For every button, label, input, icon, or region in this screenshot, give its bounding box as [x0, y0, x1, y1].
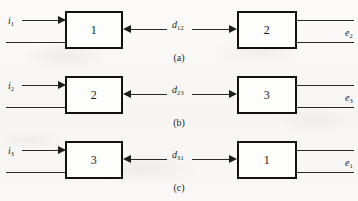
input-signal-label-c: i3: [8, 146, 14, 157]
block-left-label-b: 2: [91, 89, 97, 101]
arrow-left-icon: [123, 90, 131, 98]
arrow-right-icon: [229, 25, 237, 33]
block-right-b: 3: [237, 76, 297, 114]
distance-line-right-a: [192, 29, 229, 30]
output-signal-label-a: e2: [345, 28, 353, 39]
input-signal-label-b: i2: [8, 81, 14, 92]
block-right-label-a: 2: [264, 24, 270, 36]
block-right-c: 1: [237, 141, 297, 179]
block-right-a: 2: [237, 11, 297, 49]
block-diagram-figure: i1 1 d12 2 e2 (a) i2 2 d23: [0, 0, 358, 201]
block-left-b: 2: [65, 76, 123, 114]
output-lead-top-c: [296, 150, 354, 151]
block-left-a: 1: [65, 11, 123, 49]
output-lead-bottom-b: [296, 107, 354, 108]
input-lead-bottom-c: [6, 172, 66, 173]
caption-c: (c): [0, 182, 358, 193]
input-signal-label-a: i1: [8, 16, 14, 27]
output-lead-top-a: [296, 20, 354, 21]
distance-line-left-a: [131, 29, 167, 30]
distance-line-left-c: [131, 159, 167, 160]
output-lead-bottom-c: [296, 172, 354, 173]
distance-line-right-c: [192, 159, 229, 160]
block-right-label-c: 1: [264, 154, 270, 166]
distance-label-a: d12: [163, 20, 193, 31]
output-signal-label-b: e3: [345, 93, 353, 104]
distance-label-c: d31: [163, 150, 193, 161]
output-signal-label-c: e1: [345, 158, 353, 169]
block-left-label-c: 3: [91, 154, 97, 166]
distance-label-b: d23: [163, 85, 193, 96]
output-lead-top-b: [296, 85, 354, 86]
arrow-right-icon: [229, 90, 237, 98]
block-left-label-a: 1: [91, 24, 97, 36]
input-lead-bottom-a: [6, 42, 66, 43]
output-lead-bottom-a: [296, 42, 354, 43]
block-right-label-b: 3: [264, 89, 270, 101]
distance-line-right-b: [192, 94, 229, 95]
arrow-right-icon: [229, 155, 237, 163]
arrow-left-icon: [123, 25, 131, 33]
block-left-c: 3: [65, 141, 123, 179]
distance-line-left-b: [131, 94, 167, 95]
input-lead-bottom-b: [6, 107, 66, 108]
caption-b: (b): [0, 117, 358, 128]
arrow-left-icon: [123, 155, 131, 163]
caption-a: (a): [0, 52, 358, 63]
